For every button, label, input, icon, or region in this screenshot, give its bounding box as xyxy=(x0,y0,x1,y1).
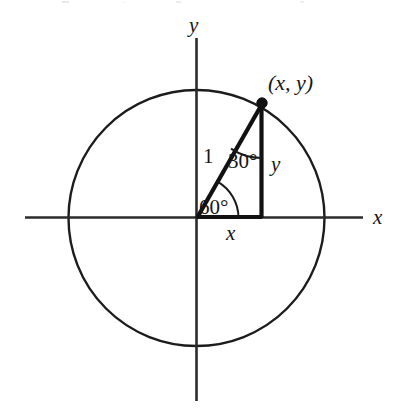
horizontal-leg-label: x xyxy=(225,221,236,245)
vertical-leg-label: y xyxy=(269,152,281,176)
scan-artifacts xyxy=(62,1,304,3)
hypotenuse-length-label: 1 xyxy=(203,144,214,168)
angle-label-30: 30° xyxy=(228,149,257,173)
point-coordinate-label: (x, y) xyxy=(268,70,313,95)
terminal-point-dot xyxy=(257,98,267,108)
angle-label-60: 60° xyxy=(199,195,228,219)
x-axis-label: x xyxy=(372,205,383,229)
figure-canvas: (x, y) y x 1 y x 30° 60° xyxy=(0,0,409,417)
unit-circle-diagram: (x, y) y x 1 y x 30° 60° xyxy=(0,0,409,417)
y-axis-label: y xyxy=(187,13,199,37)
